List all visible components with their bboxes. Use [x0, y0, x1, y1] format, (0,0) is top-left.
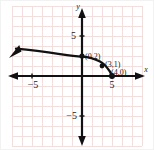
y-tick-label-pos5: 5: [71, 30, 76, 41]
point-label-0-2: (0,2): [85, 52, 101, 61]
x-axis-label: x: [143, 65, 148, 74]
data-point-3-1: [100, 64, 105, 69]
y-axis-label: y: [75, 2, 80, 11]
data-point-0-2: [79, 53, 84, 58]
x-tick-label-pos5: 5: [110, 79, 115, 90]
y-tick-label-neg5: −5: [66, 110, 77, 121]
coordinate-plane-figure: −5 5 5 −5 x y (0,2) (3,1) (4,0): [0, 0, 154, 150]
graph-svg: −5 5 5 −5 x y (0,2) (3,1) (4,0): [0, 0, 154, 150]
point-label-4-0: (4,0): [111, 68, 127, 77]
x-tick-label-neg5: −5: [28, 79, 39, 90]
